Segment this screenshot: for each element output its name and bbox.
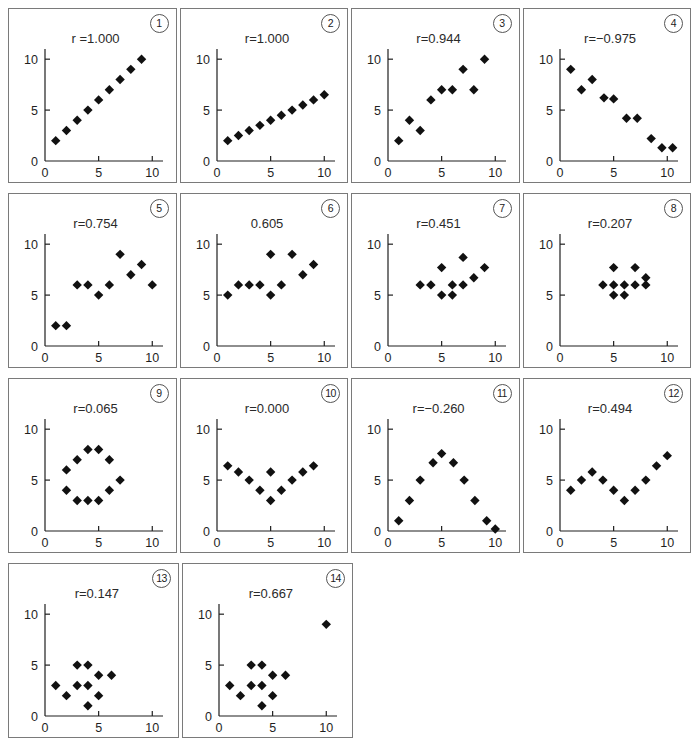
data-point — [308, 260, 317, 269]
data-point — [115, 250, 124, 259]
data-point — [480, 54, 489, 63]
svg-text:0: 0 — [203, 155, 210, 169]
panel-row: 9r=0.0650510051010r=0.0000510051011r=−0.… — [0, 378, 691, 553]
data-point — [107, 671, 116, 680]
data-point — [458, 65, 467, 74]
data-point — [667, 143, 676, 152]
scatter-panel-12[interactable]: 12r=0.49405100510 — [523, 378, 691, 553]
svg-text:10: 10 — [367, 53, 381, 67]
scatter-panel-14[interactable]: 14r=0.66705100510 — [182, 563, 353, 738]
svg-text:10: 10 — [145, 166, 159, 180]
svg-text:10: 10 — [660, 351, 674, 365]
svg-text:10: 10 — [24, 423, 38, 437]
data-point — [566, 486, 575, 495]
data-point — [137, 54, 146, 63]
data-point — [105, 486, 114, 495]
svg-text:5: 5 — [374, 289, 381, 303]
data-point — [641, 273, 650, 282]
svg-text:10: 10 — [367, 423, 381, 437]
svg-text:5: 5 — [610, 536, 617, 550]
data-point — [244, 280, 253, 289]
svg-text:10: 10 — [319, 721, 333, 735]
data-point — [265, 290, 274, 299]
scatter-panel-7[interactable]: 7r=0.45105100510 — [351, 193, 520, 368]
svg-text:0: 0 — [31, 340, 38, 354]
data-point — [225, 681, 234, 690]
data-point — [72, 681, 81, 690]
scatter-panel-3[interactable]: 3r=0.94405100510 — [351, 8, 520, 183]
svg-text:5: 5 — [267, 351, 274, 365]
scatter-panel-13[interactable]: 13r=0.14705100510 — [8, 563, 179, 738]
data-point — [223, 461, 232, 470]
data-point — [437, 449, 446, 458]
svg-text:0: 0 — [385, 166, 392, 180]
svg-text:5: 5 — [31, 659, 38, 673]
data-point — [105, 455, 114, 464]
data-point — [599, 93, 608, 102]
svg-text:0: 0 — [42, 166, 49, 180]
scatter-panel-1[interactable]: 1r =1.00005100510 — [8, 8, 177, 183]
scatter-panel-2[interactable]: 2r=1.00005100510 — [180, 8, 349, 183]
data-point — [576, 475, 585, 484]
svg-text:0: 0 — [556, 351, 563, 365]
data-point — [608, 263, 617, 272]
data-point — [62, 486, 71, 495]
svg-text:5: 5 — [438, 166, 445, 180]
svg-text:5: 5 — [203, 474, 210, 488]
scatter-panel-11[interactable]: 11r=−0.26005100510 — [351, 378, 520, 553]
data-point — [630, 263, 639, 272]
data-point — [281, 671, 290, 680]
data-point — [148, 280, 157, 289]
data-point — [94, 691, 103, 700]
svg-text:5: 5 — [610, 166, 617, 180]
scatter-panel-9[interactable]: 9r=0.06505100510 — [8, 378, 177, 553]
data-point — [308, 95, 317, 104]
scatter-panel-5[interactable]: 5r=0.75405100510 — [8, 193, 177, 368]
data-point — [115, 475, 124, 484]
plot-axes: 05100510 — [183, 564, 354, 739]
data-point — [459, 475, 468, 484]
svg-text:5: 5 — [374, 104, 381, 118]
data-point — [83, 445, 92, 454]
svg-text:10: 10 — [539, 53, 553, 67]
data-point — [448, 85, 457, 94]
data-point — [223, 290, 232, 299]
scatter-panel-10[interactable]: 10r=0.00005100510 — [180, 378, 349, 553]
data-point — [426, 280, 435, 289]
data-point — [469, 85, 478, 94]
plot-axes: 05100510 — [9, 564, 180, 739]
data-point — [276, 280, 285, 289]
data-point — [105, 280, 114, 289]
svg-text:5: 5 — [95, 721, 102, 735]
data-point — [619, 496, 628, 505]
data-point — [308, 461, 317, 470]
data-point — [657, 143, 666, 152]
svg-text:0: 0 — [546, 525, 553, 539]
data-point — [287, 475, 296, 484]
data-point — [448, 290, 457, 299]
svg-text:5: 5 — [31, 289, 38, 303]
data-point — [246, 681, 255, 690]
data-point — [255, 121, 264, 130]
svg-text:5: 5 — [203, 289, 210, 303]
plot-axes: 05100510 — [181, 194, 352, 369]
data-point — [72, 280, 81, 289]
data-point — [394, 136, 403, 145]
svg-text:5: 5 — [95, 166, 102, 180]
svg-text:10: 10 — [317, 166, 331, 180]
data-point — [62, 321, 71, 330]
data-point — [115, 75, 124, 84]
svg-text:0: 0 — [203, 340, 210, 354]
data-point — [51, 681, 60, 690]
data-point — [72, 496, 81, 505]
data-point — [265, 116, 274, 125]
scatter-panel-4[interactable]: 4r=−0.97505100510 — [523, 8, 691, 183]
data-point — [608, 94, 617, 103]
scatter-panel-8[interactable]: 8r=0.20705100510 — [523, 193, 691, 368]
data-point — [94, 95, 103, 104]
scatter-panel-6[interactable]: 60.60505100510 — [180, 193, 349, 368]
data-point — [244, 475, 253, 484]
svg-text:5: 5 — [31, 474, 38, 488]
data-point — [576, 85, 585, 94]
svg-text:5: 5 — [203, 104, 210, 118]
